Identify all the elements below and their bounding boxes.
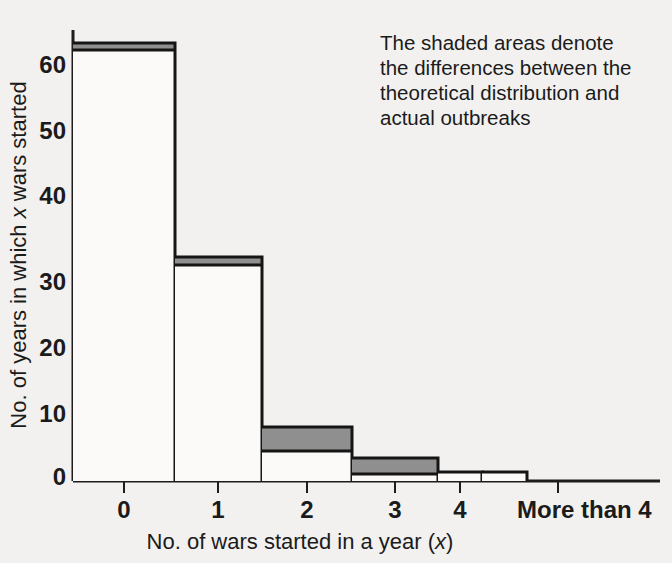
- bar-2-shaded-difference: [262, 427, 352, 451]
- x-tick-label-4: 4: [453, 496, 467, 523]
- bar-group-3: [352, 458, 438, 481]
- y-tick-label-10: 10: [39, 400, 66, 427]
- y-axis-title: No. of years in which x wars started: [6, 81, 31, 428]
- y-tick-label-30: 30: [39, 268, 66, 295]
- y-tick-label-20: 20: [39, 334, 66, 361]
- y-tick-label-60: 60: [39, 51, 66, 78]
- y-tick-label-0: 0: [53, 463, 66, 490]
- x-axis-tick-labels: 0 1 2 3 4 More than 4: [117, 496, 652, 523]
- x-tick-label-2: 2: [300, 496, 313, 523]
- x-axis-title: No. of wars started in a year (x): [147, 529, 454, 554]
- y-tick-label-40: 40: [39, 182, 66, 209]
- x-tick-label-0: 0: [117, 496, 130, 523]
- bar-group-4: [438, 472, 482, 481]
- y-axis-title-suffix: wars started: [6, 81, 31, 207]
- bar-1-body: [175, 257, 262, 481]
- annotation-line-2: the differences between the: [380, 56, 632, 79]
- x-axis-title-suffix: ): [446, 529, 453, 554]
- y-axis-title-prefix: No. of years in which: [6, 218, 31, 428]
- x-tick-label-1: 1: [211, 496, 224, 523]
- annotation-line-1: The shaded areas denote: [380, 31, 614, 54]
- x-tick-label-3: 3: [388, 496, 401, 523]
- bar-group-0: [73, 43, 175, 481]
- y-axis-tick-labels: 60 50 40 30 20 10 0: [39, 51, 66, 490]
- annotation-line-3: theoretical distribution and: [380, 81, 619, 104]
- x-axis-ticks: [124, 481, 558, 493]
- bar-group-5: [482, 472, 527, 481]
- bar-group-1: [175, 257, 262, 481]
- bar-0-body: [73, 43, 175, 481]
- chart-canvas: No. of years in which x wars started 60 …: [0, 0, 672, 563]
- bar-3-shaded-difference: [352, 458, 438, 474]
- chart-annotation: The shaded areas denote the differences …: [380, 31, 632, 129]
- y-tick-label-50: 50: [39, 117, 66, 144]
- annotation-line-4: actual outbreaks: [380, 106, 530, 129]
- x-axis-title-prefix: No. of wars started in a year (: [147, 529, 436, 554]
- bar-group-2: [262, 427, 352, 481]
- histogram-figure: No. of years in which x wars started 60 …: [0, 0, 672, 563]
- x-tick-label-more-than-4: More than 4: [517, 496, 652, 523]
